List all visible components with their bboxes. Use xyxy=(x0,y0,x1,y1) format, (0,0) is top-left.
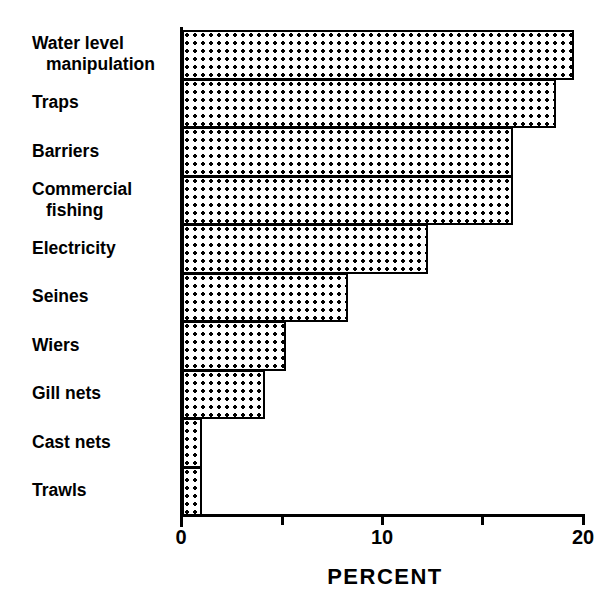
category-label-line1: Seines xyxy=(32,286,160,307)
x-tick-label-20: 20 xyxy=(553,526,612,548)
category-label: Seines xyxy=(0,273,160,322)
category-label: Gill nets xyxy=(0,370,160,419)
x-tick-label-10: 10 xyxy=(352,526,412,548)
x-axis-title: PERCENT xyxy=(182,564,588,590)
bar xyxy=(182,273,348,323)
category-label: Wiers xyxy=(0,321,160,370)
bar xyxy=(182,418,202,468)
category-label-line2: manipulation xyxy=(32,54,160,75)
category-label: Trawls xyxy=(0,467,160,516)
y-axis-line xyxy=(180,27,183,527)
plot-area xyxy=(182,30,588,515)
x-tick-0 xyxy=(180,514,183,525)
category-label-line1: Wiers xyxy=(32,335,160,356)
category-label-line1: Cast nets xyxy=(32,432,160,453)
x-tick-10 xyxy=(381,514,384,525)
bar xyxy=(182,79,556,129)
bar xyxy=(182,370,265,420)
category-label: Electricity xyxy=(0,224,160,273)
category-label: Water levelmanipulation xyxy=(0,30,160,79)
category-label-line1: Trawls xyxy=(32,480,160,501)
category-label-line1: Water level xyxy=(32,33,160,54)
bar xyxy=(182,30,574,80)
category-label-line1: Traps xyxy=(32,92,160,113)
bar xyxy=(182,176,513,226)
bar-chart: Water levelmanipulationTrapsBarriersComm… xyxy=(0,0,612,609)
bar xyxy=(182,321,286,371)
category-label-line1: Gill nets xyxy=(32,383,160,404)
category-label: Barriers xyxy=(0,127,160,176)
x-tick-20 xyxy=(582,514,585,525)
bar xyxy=(182,467,202,517)
bar xyxy=(182,127,513,177)
bar xyxy=(182,224,428,274)
x-tick-5 xyxy=(281,514,284,525)
category-label: Commercialfishing xyxy=(0,176,160,225)
category-label: Cast nets xyxy=(0,418,160,467)
category-label-line2: fishing xyxy=(32,200,160,221)
category-label-line1: Commercial xyxy=(32,179,160,200)
category-axis-labels: Water levelmanipulationTrapsBarriersComm… xyxy=(0,30,172,515)
x-tick-15 xyxy=(481,514,484,525)
category-label-line1: Barriers xyxy=(32,141,160,162)
category-label: Traps xyxy=(0,79,160,128)
x-tick-label-0: 0 xyxy=(151,526,211,548)
category-label-line1: Electricity xyxy=(32,238,160,259)
